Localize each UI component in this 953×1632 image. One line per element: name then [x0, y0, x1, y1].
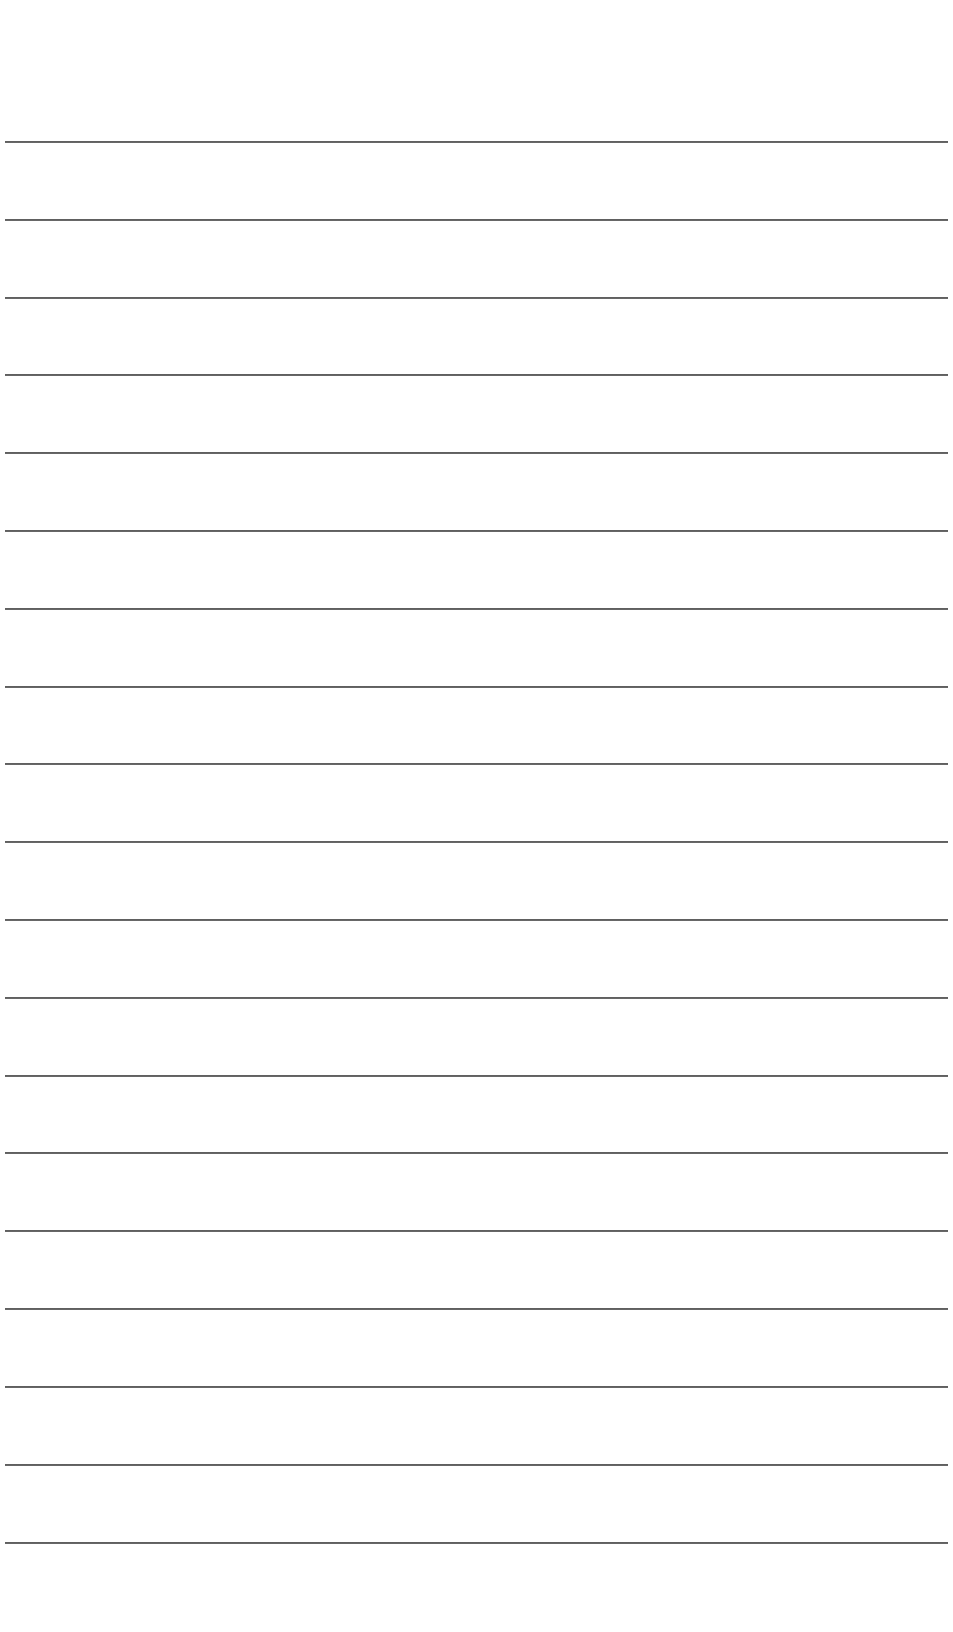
ruled-line [5, 1075, 948, 1077]
ruled-line [5, 219, 948, 221]
ruled-line [5, 1542, 948, 1544]
lined-paper-page [0, 0, 953, 1632]
ruled-line [5, 1464, 948, 1466]
ruled-line [5, 997, 948, 999]
ruled-line [5, 686, 948, 688]
ruled-line [5, 374, 948, 376]
ruled-line [5, 1386, 948, 1388]
ruled-line [5, 297, 948, 299]
ruled-line [5, 763, 948, 765]
ruled-line [5, 608, 948, 610]
ruled-line [5, 141, 948, 143]
ruled-line [5, 1308, 948, 1310]
ruled-line [5, 919, 948, 921]
ruled-line [5, 1230, 948, 1232]
ruled-line [5, 452, 948, 454]
ruled-line [5, 841, 948, 843]
ruled-line [5, 530, 948, 532]
ruled-line [5, 1152, 948, 1154]
